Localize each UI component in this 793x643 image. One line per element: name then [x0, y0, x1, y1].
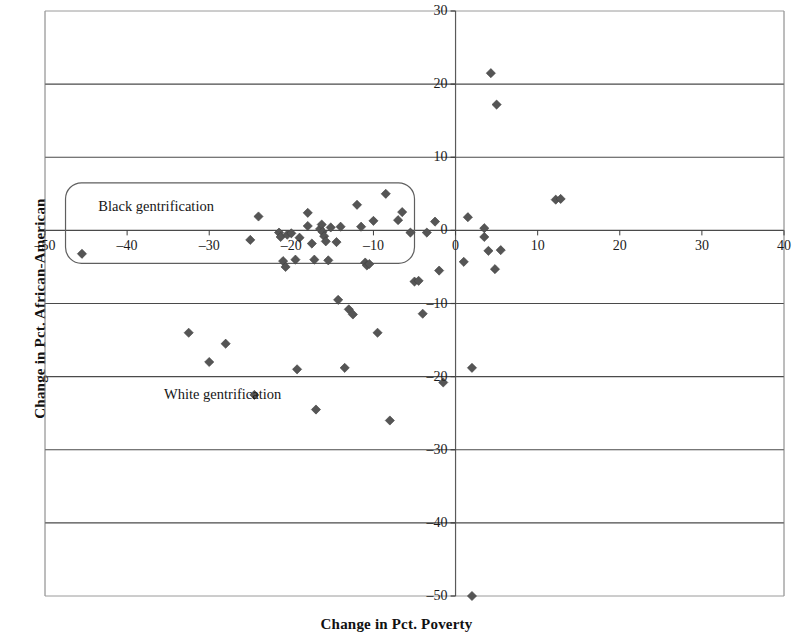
data-point	[369, 216, 378, 225]
y-tick-label: –30	[410, 442, 448, 458]
data-point	[205, 357, 214, 366]
y-tick-label: –50	[410, 588, 448, 604]
y-tick-label: 30	[410, 3, 448, 19]
data-point	[307, 239, 316, 248]
data-point	[492, 100, 501, 109]
data-point	[385, 416, 394, 425]
data-point	[435, 266, 444, 275]
data-point	[480, 224, 489, 233]
data-point	[467, 363, 476, 372]
data-point	[496, 246, 505, 255]
data-point	[490, 265, 499, 274]
data-point	[373, 328, 382, 337]
data-point	[340, 363, 349, 372]
y-tick-label: 10	[410, 149, 448, 165]
data-point	[303, 208, 312, 217]
data-point	[398, 207, 407, 216]
annotation-label-white-gentrification: White gentrification	[164, 386, 281, 403]
data-point	[332, 237, 341, 246]
data-point	[393, 216, 402, 225]
data-point	[77, 249, 86, 258]
x-tick-label: 20	[613, 238, 627, 254]
x-tick-label: –30	[199, 238, 220, 254]
y-tick-label: –40	[410, 515, 448, 531]
x-tick-label: –10	[363, 238, 384, 254]
annotation-label-black-gentrification: Black gentrification	[98, 198, 214, 215]
x-tick-label: 10	[531, 238, 545, 254]
data-point	[246, 235, 255, 244]
data-point	[381, 189, 390, 198]
data-point	[459, 257, 468, 266]
data-point	[184, 328, 193, 337]
data-point	[292, 365, 301, 374]
y-tick-label: –10	[410, 296, 448, 312]
y-tick-label: 0	[410, 222, 448, 238]
data-point	[480, 232, 489, 241]
data-point	[352, 200, 361, 209]
x-tick-label: –40	[117, 238, 138, 254]
data-point	[303, 221, 312, 230]
data-point	[486, 69, 495, 78]
data-point	[484, 246, 493, 255]
data-point	[467, 591, 476, 600]
scatter-chart: Change in Pct. African-American Change i…	[0, 0, 793, 643]
data-point	[221, 339, 230, 348]
y-tick-label: 20	[410, 76, 448, 92]
x-tick-label: –50	[35, 238, 56, 254]
data-point	[463, 213, 472, 222]
data-point	[311, 405, 320, 414]
x-tick-label: –20	[281, 238, 302, 254]
x-tick-label: 0	[452, 238, 459, 254]
x-tick-label: 40	[777, 238, 791, 254]
x-tick-label: 30	[695, 238, 709, 254]
data-points	[77, 69, 565, 601]
plot-area	[0, 0, 793, 643]
y-tick-label: –20	[410, 369, 448, 385]
data-point	[254, 212, 263, 221]
